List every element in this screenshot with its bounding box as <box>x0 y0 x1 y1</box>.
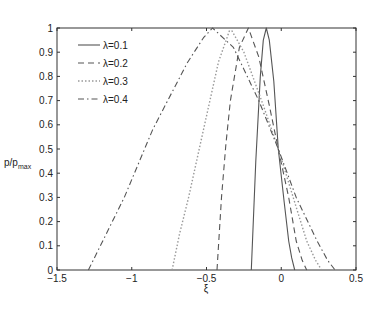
plot-frame <box>57 28 356 270</box>
x-tick-label: 0.5 <box>349 273 363 284</box>
y-tick-label: 0.7 <box>39 95 53 106</box>
y-tick-label: 0.4 <box>39 168 53 179</box>
series-line-3 <box>172 28 322 270</box>
y-tick-label: 1 <box>47 23 53 34</box>
legend-label-3: λ=0.3 <box>103 76 128 87</box>
y-tick-label: 0.5 <box>39 144 53 155</box>
y-tick-label: 0 <box>47 265 53 276</box>
y-axis-ticks: 00.10.20.30.40.50.60.70.80.91 <box>39 23 356 276</box>
y-tick-label: 0.2 <box>39 216 53 227</box>
y-tick-label: 0.6 <box>39 119 53 130</box>
y-tick-label: 0.9 <box>39 47 53 58</box>
legend-label-1: λ=0.1 <box>103 40 128 51</box>
line-chart: −1.5−1−0.500.5 00.10.20.30.40.50.60.70.8… <box>0 0 378 310</box>
x-axis-label: ξ <box>204 283 209 295</box>
y-axis-label: p/pmax <box>4 157 32 170</box>
x-tick-label: 0 <box>278 273 284 284</box>
legend: λ=0.1λ=0.2λ=0.3λ=0.4 <box>78 40 128 105</box>
legend-label-2: λ=0.2 <box>103 58 128 69</box>
x-tick-label: −1 <box>126 273 138 284</box>
legend-label-4: λ=0.4 <box>103 94 128 105</box>
series-line-1 <box>251 28 294 270</box>
plot-area-border <box>57 28 356 270</box>
y-tick-label: 0.8 <box>39 71 53 82</box>
y-axis-label-main: p/p <box>4 157 18 168</box>
y-axis-label-subscript: max <box>18 163 32 170</box>
y-tick-label: 0.1 <box>39 240 53 251</box>
x-axis-ticks: −1.5−1−0.500.5 <box>47 28 363 284</box>
y-tick-label: 0.3 <box>39 192 53 203</box>
